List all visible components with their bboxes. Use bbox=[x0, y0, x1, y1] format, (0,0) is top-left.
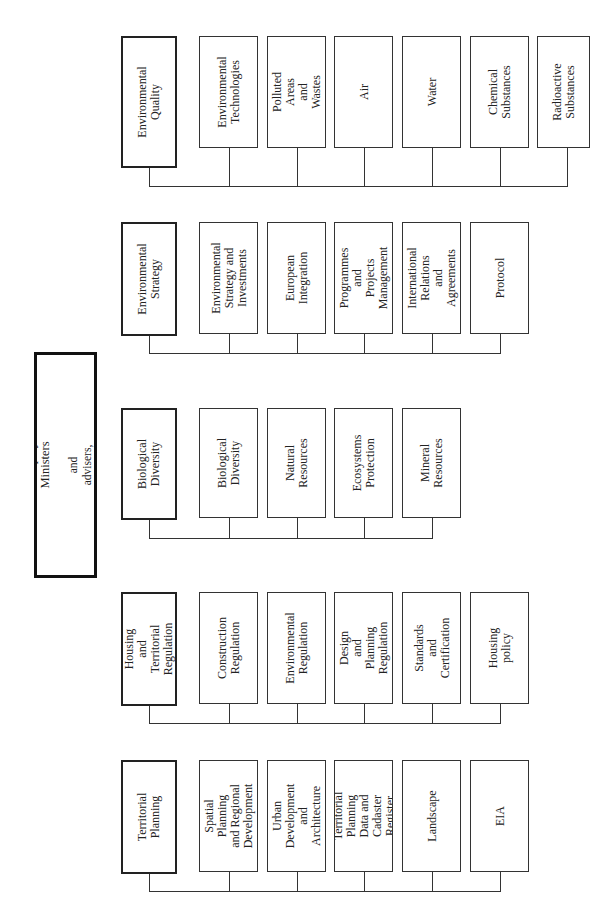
connector-line bbox=[149, 706, 150, 723]
connector-line bbox=[149, 186, 568, 187]
unit-box: Programmes and Projects Management bbox=[334, 222, 393, 334]
unit-box-label: Natural Resources bbox=[284, 438, 310, 487]
unit-box: Territorial Planning Data and Cadaster R… bbox=[334, 760, 393, 872]
unit-box: International Relations and Agreements bbox=[402, 222, 461, 334]
department-head-box: Territorial Planning bbox=[121, 760, 177, 874]
unit-box-label: Construction Regulation bbox=[216, 617, 242, 679]
connector-line bbox=[229, 334, 230, 353]
connector-line bbox=[432, 518, 433, 538]
connector-line bbox=[149, 353, 501, 354]
advisers-services: and advisers, secretariat, common servic… bbox=[66, 440, 98, 490]
unit-box-label: Radioactive Substances bbox=[551, 63, 577, 120]
unit-box: Water bbox=[402, 36, 461, 148]
unit-box: Biological Diversity bbox=[199, 408, 258, 518]
department-head-box-label: Biological Diversity bbox=[136, 439, 162, 489]
unit-box-label: Polluted Areas and Wastes bbox=[271, 72, 323, 112]
minister-box: Minister 5 Deputy Ministers and advisers… bbox=[34, 352, 97, 578]
unit-box: Environmental Technologies bbox=[199, 36, 258, 148]
connector-line bbox=[229, 704, 230, 723]
connector-line bbox=[500, 148, 501, 186]
connector-line bbox=[500, 872, 501, 891]
unit-box: Chemical Substances bbox=[470, 36, 529, 148]
connector-line bbox=[432, 334, 433, 353]
department-head-box-label: Housing and Territorial Regulation bbox=[123, 623, 175, 676]
unit-box: Landscape bbox=[402, 760, 461, 872]
unit-box-label: Chemical Substances bbox=[487, 65, 513, 118]
unit-box-label: Environmental Regulation bbox=[284, 612, 310, 683]
unit-box-label: Air bbox=[357, 84, 370, 100]
unit-box-label: Water bbox=[425, 78, 438, 106]
connector-line bbox=[364, 518, 365, 538]
unit-box: Natural Resources bbox=[267, 408, 326, 518]
connector-line bbox=[567, 148, 568, 186]
connector-line bbox=[432, 872, 433, 891]
unit-box-label: Programmes and Projects Management bbox=[338, 247, 390, 310]
unit-box-label: Territorial Planning Data and Cadaster R… bbox=[334, 792, 393, 840]
connector-line bbox=[149, 891, 501, 892]
connector-line bbox=[229, 518, 230, 538]
unit-box: Polluted Areas and Wastes bbox=[267, 36, 326, 148]
unit-box-label: Standards and Certification bbox=[412, 618, 451, 679]
unit-box-label: Environmental Strategy and Investments bbox=[209, 242, 248, 313]
deputy-ministers: 5 Deputy Ministers bbox=[34, 440, 52, 490]
unit-box: Radioactive Substances bbox=[537, 36, 590, 148]
unit-box: Spatial Planning and Regional Developmen… bbox=[199, 760, 258, 872]
unit-box: Environmental Regulation bbox=[267, 592, 326, 704]
unit-box: Protocol bbox=[470, 222, 529, 334]
unit-box: EIA bbox=[470, 760, 529, 872]
unit-box-label: Protocol bbox=[493, 258, 506, 299]
connector-line bbox=[149, 874, 150, 891]
unit-box-label: Mineral Resources bbox=[419, 438, 445, 487]
unit-box-label: Urban Development and Architecture bbox=[271, 784, 323, 849]
connector-line bbox=[297, 148, 298, 186]
unit-box: Construction Regulation bbox=[199, 592, 258, 704]
connector-line bbox=[500, 704, 501, 723]
connector-line bbox=[297, 518, 298, 538]
unit-box-label: Biological Diversity bbox=[216, 438, 242, 488]
department-head-box: Environmental Strategy bbox=[121, 222, 177, 336]
minister-label: Minister 5 Deputy Ministers and advisers… bbox=[34, 440, 97, 490]
connector-line bbox=[229, 148, 230, 186]
department-head-box: Biological Diversity bbox=[121, 408, 177, 520]
connector-line bbox=[364, 872, 365, 891]
unit-box: Environmental Strategy and Investments bbox=[199, 222, 258, 334]
connector-line bbox=[149, 336, 150, 353]
unit-box-label: Environmental Technologies bbox=[216, 56, 242, 127]
unit-box-label: Spatial Planning and Regional Developmen… bbox=[203, 784, 255, 849]
unit-box-label: EIA bbox=[493, 806, 506, 826]
connector-line bbox=[364, 148, 365, 186]
unit-box: Urban Development and Architecture bbox=[267, 760, 326, 872]
connector-line bbox=[149, 538, 433, 539]
connector-line bbox=[432, 148, 433, 186]
unit-box-label: Design and Planning Regulation bbox=[338, 622, 390, 675]
unit-box-label: European Integration bbox=[284, 252, 310, 305]
connector-line bbox=[149, 168, 150, 186]
connector-line bbox=[364, 334, 365, 353]
connector-line bbox=[364, 704, 365, 723]
unit-box: Mineral Resources bbox=[402, 408, 461, 518]
connector-line bbox=[500, 334, 501, 353]
unit-box: Standards and Certification bbox=[402, 592, 461, 704]
connector-line bbox=[432, 704, 433, 723]
unit-box-label: Housing policy bbox=[487, 628, 513, 669]
connector-line bbox=[149, 723, 501, 724]
connector-line bbox=[297, 872, 298, 891]
department-head-box: Housing and Territorial Regulation bbox=[121, 592, 177, 706]
department-head-box: Environmental Quality bbox=[121, 36, 177, 168]
unit-box-label: International Relations and Agreements bbox=[406, 247, 458, 308]
unit-box: Housing policy bbox=[470, 592, 529, 704]
unit-box: Design and Planning Regulation bbox=[334, 592, 393, 704]
unit-box-label: Landscape bbox=[425, 790, 438, 841]
department-head-box-label: Environmental Strategy bbox=[136, 243, 162, 314]
unit-box: Air bbox=[334, 36, 393, 148]
connector-line bbox=[297, 334, 298, 353]
connector-line bbox=[229, 872, 230, 891]
department-head-box-label: Territorial Planning bbox=[136, 793, 162, 841]
department-head-box-label: Environmental Quality bbox=[136, 66, 162, 137]
unit-box: Ecosystems Protection bbox=[334, 408, 393, 518]
connector-line bbox=[149, 520, 150, 538]
connector-line bbox=[297, 704, 298, 723]
unit-box-label: Ecosystems Protection bbox=[351, 435, 377, 492]
unit-box: European Integration bbox=[267, 222, 326, 334]
